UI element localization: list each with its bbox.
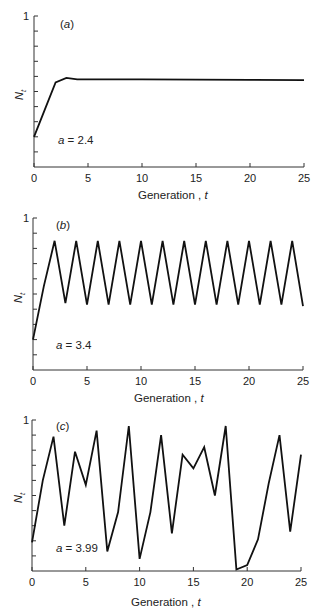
y-axis-label: Nt: [12, 492, 27, 503]
x-tick-label: 15: [187, 576, 199, 588]
panel-b: 0510152025 1 (b) a = 3.4 Nt Generation ,…: [12, 212, 309, 404]
x-tick-label: 20: [243, 375, 255, 387]
series-line: [33, 241, 303, 340]
y-tick-label-1: 1: [23, 414, 29, 426]
y-axis-label: Nt: [13, 89, 28, 100]
x-tick-label: 10: [133, 576, 145, 588]
x-axis-label: Generation , t: [138, 189, 209, 201]
x-tick-label: 15: [190, 172, 202, 184]
x-tick-label: 5: [84, 375, 90, 387]
x-tick-label: 0: [29, 576, 35, 588]
panel-c: 0510152025 1 (c) a = 3.99 Nt Generation …: [12, 414, 307, 608]
x-tick-labels: 0510152025: [31, 172, 310, 184]
figure: 0510152025 1 (a) a = 2.4 Nt Generation ,…: [0, 0, 325, 614]
y-tick-label-1: 1: [23, 10, 29, 22]
x-tick-label: 10: [135, 375, 147, 387]
panel-a: 0510152025 1 (a) a = 2.4 Nt Generation ,…: [13, 10, 310, 201]
x-tick-label: 25: [298, 172, 310, 184]
y-tick-label-1: 1: [23, 212, 29, 224]
y-axis-label: Nt: [12, 292, 27, 303]
x-tick-label: 10: [136, 172, 148, 184]
x-axis-label: Generation , t: [134, 392, 205, 404]
panel-label: (c): [56, 420, 70, 432]
x-tick-label: 25: [295, 576, 307, 588]
panel-label: (a): [60, 18, 74, 30]
parameter-label: a = 3.4: [56, 339, 92, 351]
parameter-label: a = 3.99: [56, 542, 98, 554]
x-tick-labels: 0510152025: [29, 576, 307, 588]
x-tick-label: 5: [83, 576, 89, 588]
parameter-label: a = 2.4: [58, 134, 94, 146]
x-axis-label: Generation , t: [131, 596, 202, 608]
panel-label: (b): [56, 219, 70, 231]
x-tick-label: 20: [241, 576, 253, 588]
x-tick-label: 15: [189, 375, 201, 387]
series-line: [34, 78, 304, 137]
x-tick-label: 20: [244, 172, 256, 184]
x-tick-labels: 0510152025: [30, 375, 309, 387]
x-tick-label: 0: [30, 375, 36, 387]
x-tick-label: 0: [31, 172, 37, 184]
x-tick-label: 5: [85, 172, 91, 184]
x-tick-label: 25: [297, 375, 309, 387]
